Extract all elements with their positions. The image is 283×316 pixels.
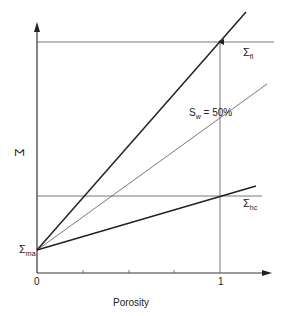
y-axis-arrow-icon — [34, 22, 40, 32]
sigma-ma-label: Σma — [19, 244, 36, 257]
ma-subscript: ma — [26, 250, 36, 257]
crossplot-diagram — [0, 0, 283, 316]
sw50-line — [37, 84, 267, 250]
hc-subscript: hc — [250, 204, 257, 211]
x-tick-label-1: 1 — [218, 277, 224, 287]
x-tick-label-0: 0 — [34, 277, 40, 287]
sw-value: = 50% — [201, 107, 232, 118]
sigma-symbol: Σ — [243, 197, 250, 209]
fluid-line — [37, 12, 246, 250]
sigma-symbol: Σ — [243, 46, 250, 58]
fl-subscript: fl — [250, 53, 254, 60]
x-axis-arrow-icon — [262, 270, 272, 276]
sigma-hc-label: Σhc — [243, 198, 257, 211]
x-axis-label: Porosity — [113, 298, 149, 308]
sw-50-label: Sw = 50% — [189, 108, 232, 120]
sw-s: S — [189, 107, 196, 118]
y-axis-label-text: Σ — [12, 148, 27, 156]
sigma-symbol: Σ — [19, 243, 26, 255]
sigma-fl-label: Σfl — [243, 47, 253, 60]
y-axis-label: Σ — [13, 148, 26, 156]
